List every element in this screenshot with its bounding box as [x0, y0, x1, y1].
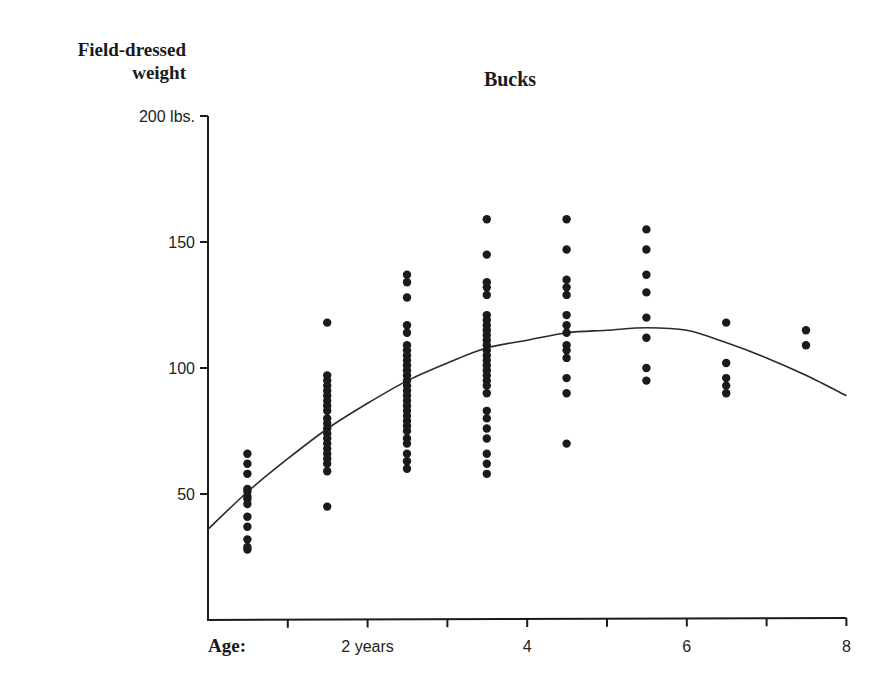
data-point [642, 245, 650, 253]
data-point [483, 291, 491, 299]
data-point [483, 407, 491, 415]
data-point [562, 276, 570, 284]
data-point [562, 311, 570, 319]
data-point [403, 449, 411, 457]
data-point [243, 523, 251, 531]
data-point [323, 318, 331, 326]
data-point [483, 414, 491, 422]
data-point [642, 225, 650, 233]
data-point [562, 439, 570, 447]
data-point [642, 313, 650, 321]
x-tick-label: 8 [842, 638, 851, 655]
data-point [243, 470, 251, 478]
data-point [722, 318, 730, 326]
data-point [483, 424, 491, 432]
data-point [562, 321, 570, 329]
data-point [243, 449, 251, 457]
data-point [483, 389, 491, 397]
data-point [722, 374, 730, 382]
data-point [642, 364, 650, 372]
data-point [483, 449, 491, 457]
data-points [243, 215, 810, 554]
data-point [562, 215, 570, 223]
data-point [642, 376, 650, 384]
x-tick-label: 2 years [341, 638, 393, 655]
data-point [483, 460, 491, 468]
data-point [323, 407, 331, 415]
y-tick-label: 50 [177, 486, 195, 503]
data-point [243, 460, 251, 468]
data-point [403, 465, 411, 473]
x-tick-label: 4 [523, 638, 532, 655]
data-point [562, 291, 570, 299]
data-point [403, 427, 411, 435]
data-point [403, 293, 411, 301]
data-point [323, 460, 331, 468]
data-point [403, 439, 411, 447]
data-point [483, 434, 491, 442]
data-point [323, 467, 331, 475]
x-tick-label: 6 [682, 638, 691, 655]
axes: 200 lbs.150100502 years468 [139, 108, 851, 655]
fitted-curve-line [208, 328, 846, 530]
y-tick-label: 150 [168, 234, 195, 251]
data-point [483, 250, 491, 258]
data-point [722, 389, 730, 397]
data-point [562, 283, 570, 291]
data-point [642, 288, 650, 296]
data-point [243, 545, 251, 553]
data-point [403, 271, 411, 279]
data-point [243, 500, 251, 508]
data-point [403, 329, 411, 337]
data-point [243, 535, 251, 543]
data-point [722, 359, 730, 367]
data-point [642, 271, 650, 279]
data-point [722, 381, 730, 389]
data-point [642, 334, 650, 342]
scatter-plot: 200 lbs.150100502 years468 [0, 0, 895, 680]
data-point [243, 512, 251, 520]
data-point [562, 346, 570, 354]
data-point [562, 245, 570, 253]
data-point [323, 502, 331, 510]
data-point [483, 381, 491, 389]
data-point [403, 457, 411, 465]
data-point [483, 283, 491, 291]
data-point [802, 341, 810, 349]
y-tick-label: 100 [168, 360, 195, 377]
data-point [562, 354, 570, 362]
data-point [562, 374, 570, 382]
y-tick-label: 200 lbs. [139, 108, 195, 125]
data-point [483, 470, 491, 478]
fitted-curve [208, 328, 846, 530]
data-point [403, 278, 411, 286]
data-point [403, 321, 411, 329]
data-point [483, 215, 491, 223]
data-point [562, 329, 570, 337]
data-point [802, 326, 810, 334]
data-point [562, 389, 570, 397]
